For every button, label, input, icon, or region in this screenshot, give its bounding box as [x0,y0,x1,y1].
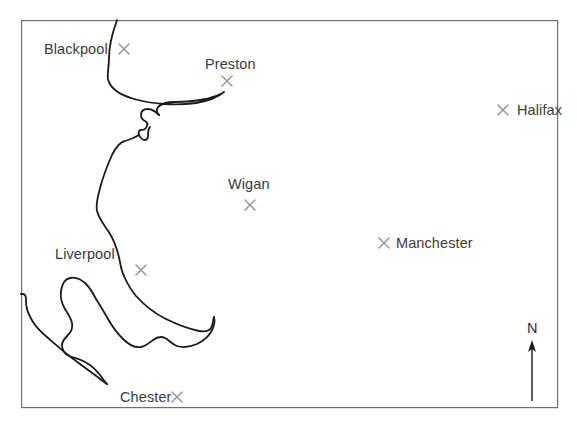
compass-north-label: N [527,321,537,336]
city-label-chester: Chester [120,390,171,405]
marker-manchester[interactable] [379,238,389,248]
marker-liverpool[interactable] [136,265,146,275]
marker-preston[interactable] [222,76,232,86]
map-canvas: Blackpool Preston Halifax Wigan Manchest… [0,0,577,425]
coastline-mersey-north-bank [124,276,214,331]
city-markers-group [119,44,508,402]
coastline-wirral-west [61,278,107,384]
city-label-preston: Preston [205,57,256,72]
map-graphics-layer [0,0,577,425]
city-label-liverpool: Liverpool [55,247,115,262]
city-label-halifax: Halifax [517,103,562,118]
map-frame-border [22,21,558,408]
coastline-mersey-estuary [96,299,214,347]
coastline-ribble-south-bank [139,109,159,140]
coastline-dee-estuary [27,309,107,384]
city-label-blackpool: Blackpool [44,42,108,57]
marker-halifax[interactable] [498,105,508,115]
city-label-wigan: Wigan [228,177,270,192]
city-label-manchester: Manchester [396,236,473,251]
marker-wigan[interactable] [245,200,255,210]
marker-blackpool[interactable] [119,44,129,54]
compass-arrow [528,340,536,401]
marker-chester[interactable] [172,392,182,402]
coastline-group [21,20,224,384]
